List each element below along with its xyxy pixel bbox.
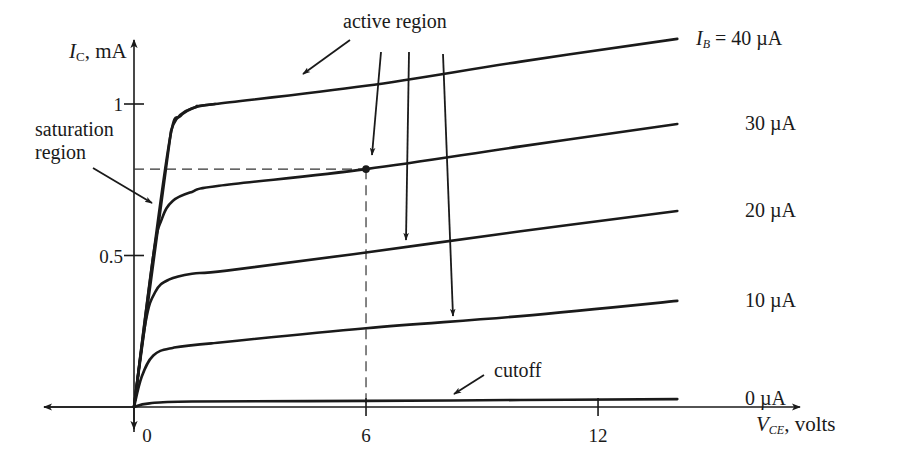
curve-label: IB = 40 µA [695, 27, 783, 51]
saturation-boundary [134, 104, 215, 407]
x-tick-label: 0 [142, 425, 152, 446]
saturation-region-label: saturation region [35, 118, 119, 164]
active-region-label: active region [343, 10, 447, 33]
curve-label: 20 µA [745, 199, 797, 222]
saturation-region-arrow [93, 168, 152, 203]
curve-ib-10ua [134, 301, 677, 407]
curve-label: 0 µA [745, 387, 787, 410]
cutoff-label: cutoff [494, 359, 542, 381]
active-region-arrow-4 [443, 54, 453, 316]
curve-ib-30ua [134, 124, 677, 407]
y-tick-label: 0.5 [99, 246, 123, 267]
axes: 06120.51 [44, 40, 800, 446]
curve-ib-0ua [134, 399, 677, 407]
curve-labels: IB = 40 µA30 µA20 µA10 µA0 µA [695, 27, 797, 410]
x-tick-label: 6 [361, 425, 371, 446]
active-region-arrow-2 [372, 52, 381, 155]
cutoff-arrow [454, 375, 484, 394]
curve-label: 10 µA [745, 289, 797, 312]
x-tick-label: 12 [589, 425, 608, 446]
transistor-characteristic-chart: 06120.51 IB = 40 µA30 µA20 µA10 µA0 µA I… [0, 0, 913, 466]
active-region-arrow-1 [303, 40, 350, 74]
y-tick-label: 1 [114, 94, 124, 115]
q-point-marker [362, 165, 370, 173]
curve-label: 30 µA [745, 112, 797, 135]
x-axis-label: VCE, volts [756, 412, 836, 437]
y-axis-label: IC, mA [68, 39, 128, 64]
